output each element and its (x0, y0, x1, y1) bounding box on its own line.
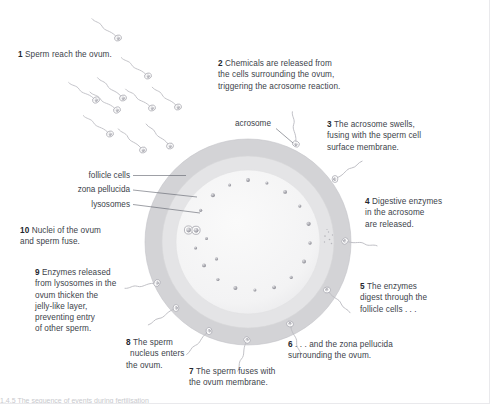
sperm-cell (114, 129, 150, 155)
step-4-line-1: Digestive enzymes (372, 197, 442, 206)
sperm-cell (119, 58, 154, 81)
step-5-line-1: The enzymes (367, 282, 417, 291)
sperm-cell (88, 92, 123, 115)
step-4-line-3: are released. (365, 220, 414, 229)
step-7-line-2: the ovum membrane. (189, 378, 268, 387)
ovum-group (145, 139, 351, 345)
sperm-swarm (67, 19, 185, 155)
step-label-1: 1 Sperm reach the ovum. (18, 49, 168, 60)
sperm-cell (67, 83, 101, 105)
step-label-9: 9 Enzymes released from lysosomes in the… (35, 267, 147, 335)
leader-acrosome (276, 129, 293, 144)
sperm-cell (81, 116, 116, 139)
callout-acrosome-label: acrosome (235, 119, 271, 128)
step-9-line-4: jelly-like layer, (35, 302, 87, 311)
step-label-8: 8 The sperm nucleus enters the ovum. (126, 337, 218, 371)
step-label-4: 4 Digestive enzymes in the acrosome are … (365, 196, 483, 230)
step-1-number: 1 (18, 50, 25, 59)
step-3-line-1: The acrosome swells, (334, 120, 415, 129)
step-2-number: 2 (218, 59, 225, 68)
step-label-3: 3 The acrosome swells, fusing with the s… (327, 119, 477, 153)
callout-lysosomes-label: lysosomes (91, 200, 130, 209)
callout-zona-pellucida-label: zona pellucida (78, 185, 130, 194)
sperm-cell (141, 124, 178, 151)
sperm-enzymes-released (329, 152, 362, 190)
step-9-line-3: ovum thicken the (35, 291, 98, 300)
step-5-line-3: follicle cells . . . (360, 305, 417, 314)
step-label-2: 2 Chemicals are released from the cells … (218, 58, 386, 92)
step-label-6: 6 . . . and the zona pellucida surroundi… (288, 339, 458, 362)
step-5-line-2: digest through the (360, 293, 427, 302)
callout-acrosome: acrosome (226, 118, 280, 129)
step-10-line-1: Nuclei of the ovum (32, 226, 101, 235)
step-2-line-3: triggering the acrosome reaction. (218, 82, 340, 91)
step-9-line-6: of other sperm. (35, 324, 91, 333)
step-9-line-5: preventing entry (35, 313, 95, 322)
step-8-line-3: the ovum. (126, 361, 163, 370)
fertilisation-diagram-figure: follicle cells zona pellucida lysosomes … (0, 0, 490, 404)
step-3-number: 3 (327, 120, 334, 129)
step-3-line-2: fusing with the sperm cell (327, 131, 421, 140)
callout-follicle-cells: follicle cells (38, 170, 130, 181)
step-9-number: 9 (35, 268, 42, 277)
step-8-line-1: The sperm (133, 338, 173, 347)
step-8-line-2: nucleus enters (126, 349, 184, 358)
step-label-5: 5 The enzymes digest through the follicl… (360, 281, 482, 315)
step-10-number: 10 (20, 226, 32, 235)
step-6-number: 6 (288, 340, 295, 349)
callout-follicle-cells-label: follicle cells (89, 171, 130, 180)
step-10-line-2: and sperm fuse. (20, 237, 80, 246)
step-label-10: 10 Nuclei of the ovum and sperm fuse. (20, 225, 142, 248)
figure-caption-cropped: 1.4.5 The sequence of events during fert… (0, 396, 490, 404)
figure-caption-text: 1.4.5 The sequence of events during fert… (0, 397, 149, 404)
step-6-line-2: surrounding the ovum. (288, 351, 371, 360)
step-8-number: 8 (126, 338, 133, 347)
step-2-line-2: the cells surrounding the ovum, (218, 70, 334, 79)
step-2-line-1: Chemicals are released from (225, 59, 332, 68)
ovum-cytoplasm (176, 170, 320, 314)
step-5-number: 5 (360, 282, 367, 291)
step-9-line-2: from lysosomes in the (35, 279, 116, 288)
sperm-cell (123, 89, 158, 113)
step-3-line-3: surface membrane. (327, 143, 399, 152)
sperm-cell (89, 19, 124, 43)
step-4-line-2: in the acrosome (365, 208, 424, 217)
callout-lysosomes: lysosomes (38, 199, 130, 210)
step-6-line-1: . . . and the zona pellucida (295, 340, 393, 349)
step-9-line-1: Enzymes released (42, 268, 111, 277)
step-1-text: Sperm reach the ovum. (25, 50, 112, 59)
callout-zona-pellucida: zona pellucida (38, 184, 130, 195)
step-4-number: 4 (365, 197, 372, 206)
